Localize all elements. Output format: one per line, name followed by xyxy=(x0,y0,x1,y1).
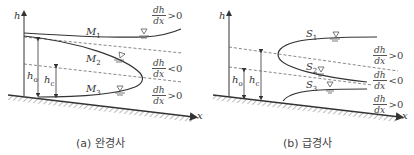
curve-label-m1: M1 xyxy=(86,27,101,41)
normal-depth-label: ho xyxy=(232,75,243,89)
curve-label-s1: S1 xyxy=(306,29,317,43)
ground-hatch xyxy=(213,95,398,122)
curve-label-s2: S2 xyxy=(306,62,317,76)
water-surface-icon xyxy=(114,29,149,95)
curve-label-m3: M3 xyxy=(86,84,101,98)
h-axis-label: h xyxy=(219,11,225,21)
x-axis-label: x xyxy=(197,111,203,121)
s3-curve xyxy=(283,89,367,101)
gradient-label-lower: dhdx>0 xyxy=(152,85,182,106)
gradient-label-upper: dhdx>0 xyxy=(152,5,182,26)
gradient-label-middle: dhdx<0 xyxy=(373,70,403,91)
curve-label-s3: S3 xyxy=(306,80,317,94)
critical-depth-label: hc xyxy=(249,75,259,89)
caption-mild-slope: (a) 완경사 xyxy=(76,134,125,150)
critical-depth-label: hc xyxy=(44,75,54,89)
water-surface-profile-figure: h x M1 M2 M3 ho hc dhdx>0 dhdx<0 dhdx>0 … xyxy=(0,0,414,155)
gradient-label-lower: dhdx>0 xyxy=(373,94,403,115)
water-surface-icon xyxy=(316,32,340,93)
caption-steep-slope: (b) 급경사 xyxy=(283,134,332,150)
normal-depth-label: ho xyxy=(27,71,38,85)
profile-drawing xyxy=(0,0,414,155)
gradient-label-middle: dhdx<0 xyxy=(152,58,182,79)
m1-curve xyxy=(24,29,181,37)
curve-label-m2: M2 xyxy=(86,54,101,68)
channel-bed-x-axis xyxy=(213,95,400,117)
h-axis-label: h xyxy=(14,11,20,21)
gradient-label-upper: dhdx>0 xyxy=(373,45,403,66)
s1-s2-curve xyxy=(278,37,377,82)
m2-m3-curve xyxy=(24,36,142,97)
